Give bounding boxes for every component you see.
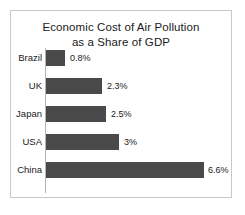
value-label-uk: 2.3% bbox=[107, 78, 128, 94]
plot-area: Brazil 0.8% UK 2.3% Japan 2.5% USA 3% Ch… bbox=[11, 48, 233, 195]
value-label-brazil: 0.8% bbox=[70, 50, 91, 66]
category-label-uk: UK bbox=[11, 78, 42, 94]
bar-row: UK 2.3% bbox=[11, 78, 233, 94]
bar-row: China 6.6% bbox=[11, 162, 233, 178]
chart-title: Economic Cost of Air Pollution as a Shar… bbox=[11, 20, 231, 50]
bar-brazil[interactable] bbox=[46, 50, 65, 66]
category-label-japan: Japan bbox=[11, 106, 42, 122]
category-label-usa: USA bbox=[11, 134, 42, 150]
category-label-china: China bbox=[11, 162, 42, 178]
bar-row: USA 3% bbox=[11, 134, 233, 150]
bar-china[interactable] bbox=[46, 162, 204, 178]
value-label-usa: 3% bbox=[124, 134, 137, 150]
bar-uk[interactable] bbox=[46, 78, 102, 94]
chart-frame: Economic Cost of Air Pollution as a Shar… bbox=[10, 10, 232, 198]
bar-japan[interactable] bbox=[46, 106, 106, 122]
value-label-japan: 2.5% bbox=[111, 106, 132, 122]
bar-usa[interactable] bbox=[46, 134, 119, 150]
chart-title-line-1: Economic Cost of Air Pollution bbox=[11, 20, 231, 35]
bar-row: Japan 2.5% bbox=[11, 106, 233, 122]
value-label-china: 6.6% bbox=[208, 162, 229, 178]
category-label-brazil: Brazil bbox=[11, 50, 42, 66]
bar-row: Brazil 0.8% bbox=[11, 50, 233, 66]
